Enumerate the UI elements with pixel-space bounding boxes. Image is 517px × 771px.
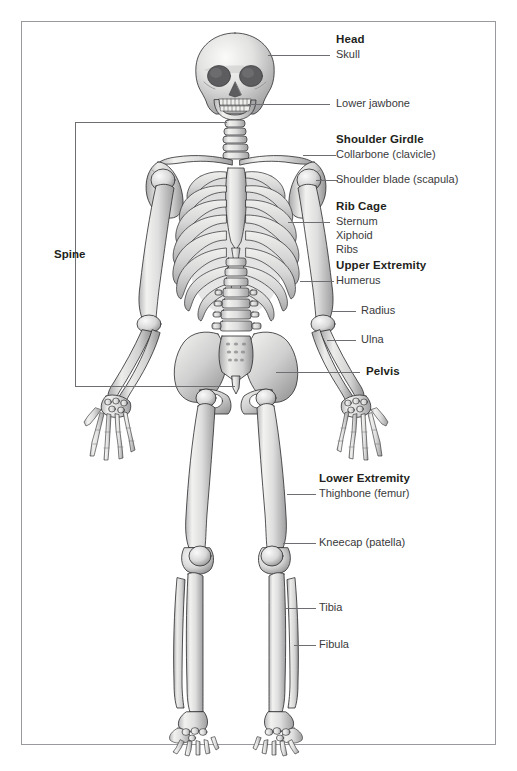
leader-radius [331, 311, 356, 312]
label-ribs: Ribs [336, 243, 358, 255]
label-shoulder-blade: Shoulder blade (scapula) [336, 173, 458, 185]
diagram-frame [21, 21, 496, 745]
leader-spine-top [75, 122, 227, 123]
leader-collarbone [303, 155, 336, 156]
label-tibia: Tibia [319, 601, 342, 613]
label-lower-extremity: Lower Extremity [319, 472, 410, 484]
leader-tibia [286, 608, 316, 609]
label-thighbone: Thighbone (femur) [319, 487, 410, 499]
leader-humerus [300, 281, 334, 282]
label-humerus: Humerus [336, 274, 381, 286]
label-upper-extremity: Upper Extremity [336, 259, 426, 271]
leader-shoulder-blade [316, 180, 338, 181]
label-kneecap: Kneecap (patella) [319, 536, 405, 548]
label-skull: Skull [336, 48, 360, 60]
label-sternum: Sternum [336, 215, 378, 227]
label-rib-cage: Rib Cage [336, 200, 387, 212]
leader-thighbone [287, 494, 316, 495]
leader-pelvis [276, 372, 360, 373]
label-radius: Radius [361, 304, 395, 316]
label-spine: Spine [54, 248, 85, 260]
label-shoulder-girdle: Shoulder Girdle [336, 133, 424, 145]
leader-sternum [288, 222, 330, 223]
label-xiphoid: Xiphoid [336, 229, 373, 241]
label-lower-jawbone: Lower jawbone [336, 97, 410, 109]
label-pelvis: Pelvis [366, 365, 400, 377]
skeleton-diagram: Head Skull Lower jawbone Shoulder Girdle… [0, 0, 517, 771]
label-head: Head [336, 33, 365, 45]
leader-kneecap [283, 543, 316, 544]
label-fibula: Fibula [319, 638, 349, 650]
leader-skull [268, 55, 330, 56]
leader-ulna [327, 340, 356, 341]
leader-fibula [294, 645, 316, 646]
label-ulna: Ulna [361, 333, 384, 345]
label-collarbone: Collarbone (clavicle) [336, 148, 436, 160]
leader-lower-jawbone [248, 104, 330, 105]
leader-spine-bottom [75, 386, 235, 387]
